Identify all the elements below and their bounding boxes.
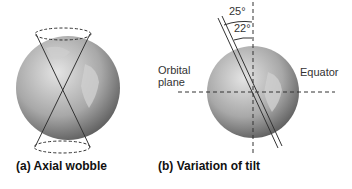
orbital-plane-label: Orbital plane [158, 64, 190, 88]
caption-axial-wobble: (a) Axial wobble [16, 159, 107, 173]
caption-variation-of-tilt: (b) Variation of tilt [158, 159, 260, 173]
angle-22-label: 22° [234, 22, 251, 34]
angle-25-label: 25° [229, 5, 246, 17]
orbital-label-line2: plane [158, 76, 190, 88]
globe-a [16, 36, 120, 140]
diagram-canvas: 25° 22° Orbital plane Equator (a) Axial … [0, 0, 352, 189]
orbital-label-line1: Orbital [158, 64, 190, 76]
equator-label: Equator [300, 66, 339, 78]
